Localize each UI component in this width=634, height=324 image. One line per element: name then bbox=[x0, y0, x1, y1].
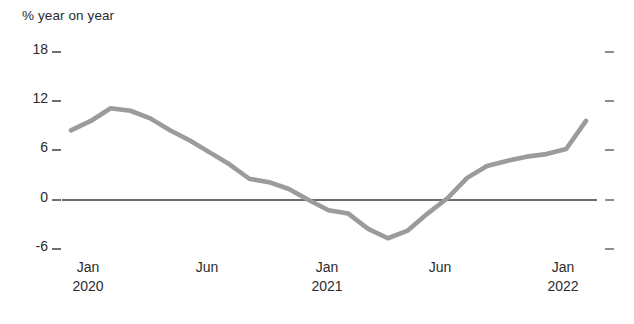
x-tick-month: Jun bbox=[429, 259, 452, 275]
x-tick-label-jan-2021: Jan 2021 bbox=[282, 258, 372, 296]
x-tick-year: 2021 bbox=[282, 277, 372, 296]
x-tick-year: 2022 bbox=[518, 277, 608, 296]
x-tick-label-jun-2020: Jun bbox=[162, 258, 252, 277]
x-tick-month: Jan bbox=[77, 259, 100, 275]
x-tick-label-jan-2020: Jan 2020 bbox=[43, 258, 133, 296]
x-tick-label-jan-2022: Jan 2022 bbox=[518, 258, 608, 296]
chart-container: % year on year 18 12 6 0 -6 Jan 2020 Jun… bbox=[0, 0, 634, 324]
x-tick-month: Jan bbox=[552, 259, 575, 275]
x-tick-year: 2020 bbox=[43, 277, 133, 296]
x-tick-month: Jan bbox=[316, 259, 339, 275]
x-tick-label-jun-2021: Jun bbox=[395, 258, 485, 277]
series-line-inflation bbox=[71, 108, 586, 238]
x-tick-month: Jun bbox=[196, 259, 219, 275]
